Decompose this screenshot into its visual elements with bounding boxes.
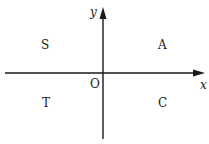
cast-diagram: x y O A S T C	[0, 0, 209, 144]
x-axis-label: x	[200, 78, 207, 92]
quadrant-1-label: A	[157, 38, 167, 52]
quadrant-3-label: T	[42, 96, 50, 110]
quadrant-4-label: C	[158, 96, 167, 110]
quadrant-2-label: S	[41, 38, 49, 52]
y-axis-label: y	[89, 5, 97, 19]
origin-label: O	[90, 77, 100, 91]
x-axis-arrow-icon	[193, 70, 205, 77]
y-axis-arrow-icon	[100, 7, 107, 19]
